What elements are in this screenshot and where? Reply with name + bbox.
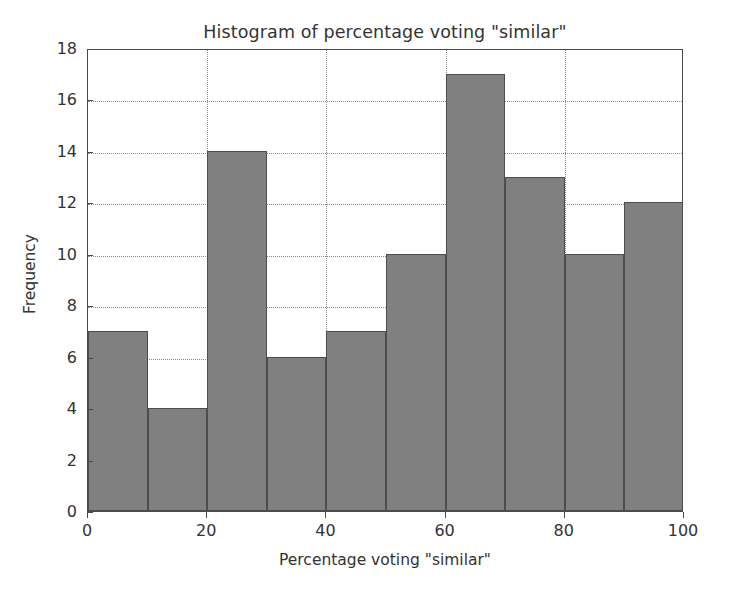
gridline-horizontal [88, 204, 682, 205]
x-tick-label: 100 [653, 521, 713, 540]
y-tick-label: 4 [29, 399, 77, 418]
x-tick-mark [564, 512, 565, 518]
x-tick-mark [325, 512, 326, 518]
x-axis-label: Percentage voting "similar" [87, 551, 683, 569]
y-tick-label: 6 [29, 348, 77, 367]
y-tick-label: 0 [29, 502, 77, 521]
plot-area [87, 49, 683, 512]
y-tick-mark [87, 358, 93, 359]
histogram-bar [267, 357, 327, 511]
x-tick-label: 0 [57, 521, 117, 540]
y-tick-mark [87, 409, 93, 410]
histogram-bar [148, 408, 208, 511]
y-tick-mark [87, 461, 93, 462]
histogram-bar [446, 74, 506, 511]
y-tick-label: 2 [29, 451, 77, 470]
histogram-bar [88, 331, 148, 511]
y-tick-mark [87, 152, 93, 153]
histogram-bar [207, 151, 267, 511]
histogram-figure: Histogram of percentage voting "similar"… [0, 0, 729, 591]
y-tick-label: 14 [29, 142, 77, 161]
histogram-bar [505, 177, 565, 511]
y-tick-mark [87, 255, 93, 256]
histogram-bar [326, 331, 386, 511]
histogram-bar [565, 254, 625, 511]
x-tick-label: 20 [176, 521, 236, 540]
y-tick-label: 18 [29, 39, 77, 58]
y-tick-label: 16 [29, 90, 77, 109]
y-tick-mark [87, 203, 93, 204]
x-tick-label: 40 [295, 521, 355, 540]
gridline-horizontal [88, 101, 682, 102]
y-tick-mark [87, 100, 93, 101]
chart-title: Histogram of percentage voting "similar" [87, 22, 683, 42]
gridline-horizontal [88, 153, 682, 154]
y-axis-label: Frequency [21, 204, 39, 344]
x-tick-mark [206, 512, 207, 518]
y-tick-mark [87, 306, 93, 307]
histogram-bar [386, 254, 446, 511]
x-tick-label: 80 [534, 521, 594, 540]
x-tick-mark [683, 512, 684, 518]
x-tick-mark [445, 512, 446, 518]
histogram-bar [624, 202, 683, 511]
x-tick-mark [87, 512, 88, 518]
y-tick-mark [87, 49, 93, 50]
x-tick-label: 60 [415, 521, 475, 540]
